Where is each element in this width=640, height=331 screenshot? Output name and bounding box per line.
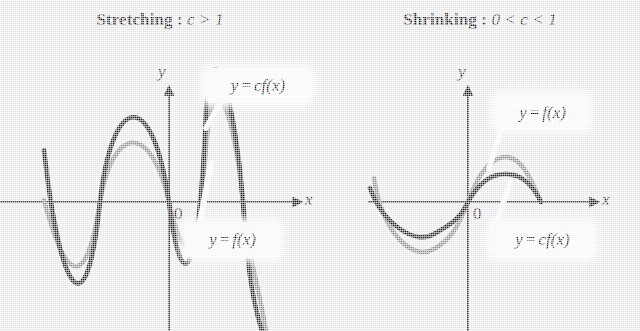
callout-shrinking-base-lhs: y — [519, 103, 527, 123]
callout-stretching-base-lhs: y — [209, 230, 217, 250]
shrinking-x-axis-label: x — [602, 190, 610, 210]
callout-shrinking-base-eq: = — [527, 103, 543, 123]
stretching-origin-label: 0 — [174, 204, 183, 224]
panel-shrinking: Shrinking : 0 < c < 1 y — [320, 0, 640, 331]
callout-shrinking-base-rhs: f(x) — [542, 103, 566, 123]
callout-stretching-base-eq: = — [217, 230, 233, 250]
callout-stretching-transformed: y=cf(x) — [205, 68, 311, 103]
callout-stretching-transformed-rhs: cf(x) — [254, 76, 285, 96]
stretching-curve-transformed — [44, 69, 262, 331]
panel-stretching: Stretching : c > 1 y x — [0, 0, 320, 331]
transformation-figure: Stretching : c > 1 y x — [0, 0, 640, 331]
shrinking-plot — [320, 0, 640, 331]
callout-stretching-transformed-lhs: y — [231, 76, 239, 96]
callout-shrinking-transformed-rhs: cf(x) — [539, 230, 570, 250]
callout-stretching-base: y=f(x) — [185, 222, 280, 258]
stretching-plot — [0, 0, 320, 331]
callout-shrinking-transformed: y=cf(x) — [490, 222, 595, 258]
callout-stretching-transformed-eq: = — [238, 76, 254, 96]
callout-stretching-base-rhs: f(x) — [232, 230, 256, 250]
callout-shrinking-transformed-lhs: y — [515, 230, 523, 250]
callout-shrinking-transformed-eq: = — [523, 230, 539, 250]
stretching-x-axis-label: x — [305, 190, 313, 210]
shrinking-y-axis-label: y — [458, 62, 466, 82]
stretching-y-axis-label: y — [158, 62, 166, 82]
callout-shrinking-base: y=f(x) — [495, 95, 590, 130]
shrinking-origin-label: 0 — [473, 204, 482, 224]
